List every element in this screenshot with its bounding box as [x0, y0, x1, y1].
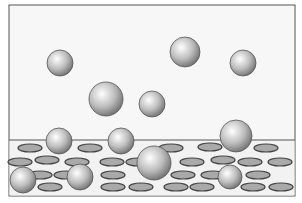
particle-sphere	[220, 120, 252, 152]
pore-hole	[38, 183, 62, 191]
pore-hole	[246, 171, 270, 179]
pore-hole	[129, 183, 153, 191]
pore-hole	[35, 156, 59, 164]
pore-hole	[171, 171, 195, 179]
particle-sphere	[230, 50, 256, 76]
adsorption-diagram	[0, 0, 302, 203]
pore-hole	[269, 183, 293, 191]
particle-sphere	[170, 37, 200, 67]
pore-hole	[180, 158, 204, 166]
pore-hole	[241, 183, 265, 191]
pore-hole	[190, 183, 214, 191]
pore-hole	[101, 171, 125, 179]
pore-hole	[211, 156, 235, 164]
particle-sphere	[137, 146, 171, 180]
particle-sphere	[108, 128, 134, 154]
pore-hole	[238, 158, 262, 166]
pore-hole	[254, 144, 278, 152]
particle-sphere	[218, 165, 242, 189]
particle-sphere	[47, 50, 73, 76]
particle-sphere	[10, 167, 36, 193]
particle-sphere	[46, 128, 72, 154]
pore-hole	[164, 183, 188, 191]
particle-sphere	[139, 91, 165, 117]
particle-sphere	[89, 82, 123, 116]
pore-hole	[18, 144, 42, 152]
pore-hole	[268, 158, 292, 166]
pore-hole	[100, 158, 124, 166]
pore-hole	[198, 143, 222, 151]
pore-hole	[78, 144, 102, 152]
particle-sphere	[67, 164, 93, 190]
pore-hole	[101, 183, 125, 191]
pore-hole	[8, 158, 32, 166]
